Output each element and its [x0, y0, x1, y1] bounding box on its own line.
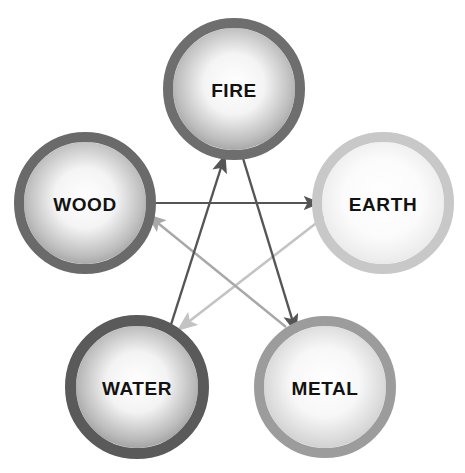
node-earth[interactable]: EARTH	[317, 137, 449, 269]
node-metal-disc	[264, 326, 386, 448]
diagram-canvas: FIRE WOOD EARTH WATER METAL	[0, 0, 465, 473]
node-wood-disc	[24, 142, 146, 264]
arrow-layer	[148, 155, 328, 334]
node-metal[interactable]: METAL	[259, 321, 391, 453]
arrow-water-to-fire	[168, 155, 225, 334]
five-elements-diagram: FIRE WOOD EARTH WATER METAL	[0, 0, 465, 473]
node-water[interactable]: WATER	[71, 321, 204, 454]
node-fire[interactable]: FIRE	[168, 23, 300, 155]
node-fire-disc	[173, 28, 295, 150]
node-layer: FIRE WOOD EARTH WATER METAL	[19, 23, 449, 454]
node-water-disc	[76, 326, 198, 448]
node-earth-disc	[322, 142, 444, 264]
node-wood[interactable]: WOOD	[19, 137, 151, 269]
